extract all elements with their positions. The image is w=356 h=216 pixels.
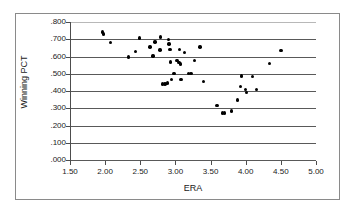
x-axis-tick-label: 2.50 <box>120 168 160 176</box>
data-point <box>148 45 151 48</box>
data-point <box>223 111 226 114</box>
data-point <box>198 45 201 48</box>
x-axis-tick-label: 5.00 <box>296 168 336 176</box>
y-axis-tick-label: .200 <box>26 122 66 130</box>
x-axis-tick <box>316 161 317 165</box>
x-axis-tick <box>246 161 247 165</box>
data-point <box>193 59 196 62</box>
x-axis-tick-label: 4.00 <box>226 168 266 176</box>
data-point <box>172 72 175 75</box>
y-axis-tick <box>66 126 71 127</box>
gridline <box>70 39 316 40</box>
y-axis-tick <box>66 74 71 75</box>
y-axis-tick-label: .700 <box>26 35 66 43</box>
y-axis-tick <box>66 39 71 40</box>
x-axis-tick-label: 3.00 <box>155 168 195 176</box>
y-axis-tick-label: .400 <box>26 87 66 95</box>
data-point <box>189 72 192 75</box>
data-point <box>236 98 239 101</box>
plot-area <box>70 22 316 160</box>
data-point <box>138 36 141 39</box>
y-axis-tick <box>66 91 71 92</box>
data-point <box>255 88 258 91</box>
data-point <box>230 109 233 112</box>
y-axis-title: Winning PCT <box>19 34 29 130</box>
data-point <box>178 48 181 51</box>
x-axis-tick <box>105 161 106 165</box>
data-point <box>240 74 243 77</box>
y-axis-tick-label: .300 <box>26 104 66 112</box>
data-point <box>169 60 172 63</box>
gridline <box>70 143 316 144</box>
x-axis-title: ERA <box>70 183 316 193</box>
scatter-chart-figure: .000.100.200.300.400.500.600.700.800 Win… <box>0 0 356 216</box>
data-point <box>167 42 170 45</box>
data-point <box>158 48 161 51</box>
x-axis-tick-label: 3.50 <box>191 168 231 176</box>
gridline <box>70 126 316 127</box>
data-point <box>134 50 137 53</box>
data-point <box>279 49 282 52</box>
gridline <box>70 74 316 75</box>
x-axis-tick <box>70 161 71 165</box>
x-axis-tick-label: 1.50 <box>50 168 90 176</box>
data-point <box>170 78 173 81</box>
x-axis-tick <box>281 161 282 165</box>
data-point <box>109 41 112 44</box>
y-axis-tick <box>66 22 71 23</box>
x-axis-tick <box>211 161 212 165</box>
y-axis-tick <box>66 108 71 109</box>
data-point <box>166 81 169 84</box>
y-axis-tick-label: .800 <box>26 18 66 26</box>
data-point <box>153 40 156 43</box>
gridline <box>70 22 316 23</box>
y-axis-tick-label: .600 <box>26 53 66 61</box>
data-point <box>251 75 254 78</box>
data-point <box>102 32 105 35</box>
data-point <box>183 51 186 54</box>
data-point <box>179 78 182 81</box>
data-point <box>268 62 271 65</box>
data-point <box>239 85 242 88</box>
x-axis-tick-label: 4.50 <box>261 168 301 176</box>
x-axis-tick <box>175 161 176 165</box>
data-point <box>179 62 182 65</box>
gridline <box>70 108 316 109</box>
x-axis-tick-label: 2.00 <box>85 168 125 176</box>
data-point <box>127 55 130 58</box>
y-axis-tick-label: .000 <box>26 156 66 164</box>
data-point <box>245 91 248 94</box>
y-axis-tick <box>66 143 71 144</box>
data-point <box>215 104 218 107</box>
y-axis-tick <box>66 57 71 58</box>
y-axis-tick-label: .500 <box>26 70 66 78</box>
data-point <box>168 48 171 51</box>
data-point <box>167 38 170 41</box>
gridline <box>70 57 316 58</box>
x-axis-tick <box>140 161 141 165</box>
y-axis-tick-label: .100 <box>26 139 66 147</box>
data-point <box>151 54 154 57</box>
data-point <box>202 80 205 83</box>
gridline <box>70 91 316 92</box>
gridline <box>70 160 316 161</box>
